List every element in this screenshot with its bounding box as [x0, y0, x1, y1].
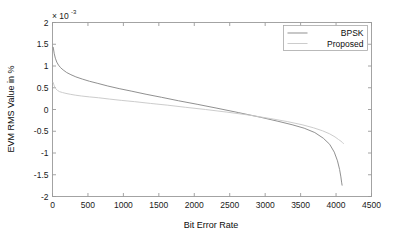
y-tick-label: 1.5 — [37, 39, 49, 49]
y-axis-multiplier-exponent: -3 — [71, 9, 77, 15]
x-tick-label: 2500 — [220, 200, 239, 210]
x-tick-label: 1500 — [149, 200, 168, 210]
x-axis-title: Bit Error Rate — [184, 220, 239, 230]
x-tick-label: 1000 — [114, 200, 133, 210]
y-tick-label: -1.5 — [34, 170, 49, 180]
x-tick-label: 2000 — [185, 200, 204, 210]
x-tick-label: 0 — [50, 200, 55, 210]
x-tick-label: 4000 — [327, 200, 346, 210]
x-tick-label: 500 — [81, 200, 95, 210]
chart-legend[interactable]: BPSKProposed — [284, 26, 368, 51]
y-tick-label: 0 — [44, 105, 49, 115]
x-tick-label: 4500 — [362, 200, 381, 210]
chart-figure: 050010001500200025003000350040004500 -2-… — [0, 0, 394, 239]
y-axis-title: EVM RMS Value in % — [6, 66, 16, 153]
y-tick-label: 0.5 — [37, 83, 49, 93]
y-tick-label: -2 — [41, 192, 49, 202]
y-tick-label: 1 — [44, 61, 49, 71]
legend-label-bpsk: BPSK — [341, 28, 364, 38]
legend-label-proposed: Proposed — [327, 39, 364, 49]
y-tick-label: -0.5 — [34, 126, 49, 136]
y-axis-multiplier-base: × 10 — [52, 11, 69, 21]
x-tick-label: 3000 — [256, 200, 275, 210]
y-tick-label: 2 — [44, 18, 49, 28]
evm-vs-ber-line-chart: 050010001500200025003000350040004500 -2-… — [0, 0, 394, 239]
x-tick-label: 3500 — [291, 200, 310, 210]
y-tick-label: -1 — [41, 148, 49, 158]
